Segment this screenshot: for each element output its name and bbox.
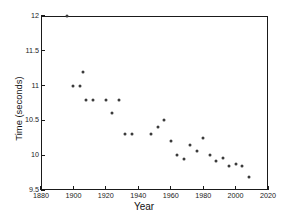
x-tick-mark [170, 186, 171, 191]
data-point [182, 157, 185, 160]
x-tick-label: 2020 [260, 192, 276, 200]
y-tick-mark [41, 50, 45, 51]
data-point [202, 136, 205, 139]
y-tick-label: 12 [31, 12, 39, 19]
data-point [65, 15, 68, 18]
data-point [241, 164, 244, 167]
x-tick-label: 1880 [33, 192, 49, 200]
data-point [176, 154, 179, 157]
data-point [85, 98, 88, 101]
x-tick-label: 1900 [65, 192, 81, 200]
y-tick-label: 10 [31, 152, 39, 159]
y-tick-mark [41, 155, 45, 156]
y-tick-mark [41, 120, 45, 121]
data-point [234, 163, 237, 166]
data-point [156, 126, 159, 129]
data-point [91, 98, 94, 101]
data-point [130, 133, 133, 136]
data-point [208, 154, 211, 157]
y-tick-label: 11 [32, 82, 39, 89]
data-point [169, 140, 172, 143]
x-tick-mark [203, 186, 204, 191]
data-point [117, 98, 120, 101]
x-tick-mark [73, 186, 74, 191]
data-point [150, 133, 153, 136]
y-tick-label: 11.5 [26, 47, 39, 54]
data-point [163, 119, 166, 122]
data-point [78, 84, 81, 87]
data-point [189, 144, 192, 147]
data-point [72, 84, 75, 87]
x-tick-mark [138, 186, 139, 191]
scatter-chart-figure: 9.51010.51111.512 1880190019201940196019… [0, 0, 288, 224]
x-tick-mark [40, 186, 41, 191]
x-tick-label: 1960 [163, 192, 179, 200]
data-point [82, 70, 85, 73]
x-tick-label: 1920 [98, 192, 114, 200]
data-point [195, 150, 198, 153]
data-point [215, 159, 218, 162]
x-tick-label: 1940 [130, 192, 146, 200]
data-point [221, 156, 224, 159]
x-tick-mark [105, 186, 106, 191]
x-axis-title: Year [0, 201, 288, 212]
y-tick-mark [41, 15, 45, 16]
x-tick-mark [267, 186, 268, 191]
data-point [124, 133, 127, 136]
x-tick-label: 1980 [195, 192, 211, 200]
data-point [104, 98, 107, 101]
data-point [228, 165, 231, 168]
y-tick-label: 10.5 [25, 117, 39, 124]
y-axis-title: Time (seconds) [13, 39, 24, 179]
x-tick-mark [235, 186, 236, 191]
y-tick-mark [41, 85, 45, 86]
data-point [247, 175, 250, 178]
data-point [111, 112, 114, 115]
x-tick-label: 2000 [228, 192, 244, 200]
